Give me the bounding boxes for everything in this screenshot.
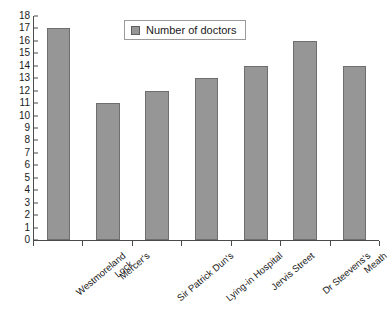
y-axis-tick-label: 6 (24, 160, 30, 170)
bar-slot (280, 16, 329, 240)
bar-slot (133, 16, 182, 240)
y-axis-tick-label: 7 (24, 148, 30, 158)
bar[interactable] (343, 66, 367, 240)
bar[interactable] (47, 28, 71, 240)
x-axis-label: Dr Steevens's (320, 250, 372, 296)
bar-slot (231, 16, 280, 240)
plot-area: 1817161514131211109876543210 (34, 16, 379, 240)
y-axis-tick-label: 14 (19, 61, 30, 71)
bar-series (34, 16, 379, 240)
bar[interactable] (145, 91, 169, 240)
y-axis-tick-label: 15 (19, 48, 30, 58)
y-axis-tick-label: 8 (24, 135, 30, 145)
y-axis-tick-label: 12 (19, 86, 30, 96)
bar[interactable] (244, 66, 268, 240)
x-axis-tick-mark (379, 241, 380, 246)
y-axis-tick-label: 18 (19, 11, 30, 21)
y-axis-tick-label: 13 (19, 73, 30, 83)
y-axis-tick-label: 9 (24, 123, 30, 133)
bar-chart: 1817161514131211109876543210 Westmorelan… (0, 0, 392, 322)
bar-slot (330, 16, 379, 240)
bar-slot (182, 16, 231, 240)
legend-label: Number of doctors (146, 24, 236, 36)
bar[interactable] (96, 103, 120, 240)
y-axis-tick-label: 2 (24, 210, 30, 220)
bar[interactable] (293, 41, 317, 240)
y-axis-tick-label: 17 (19, 23, 30, 33)
bar[interactable] (195, 78, 219, 240)
y-axis-tick-label: 0 (24, 235, 30, 245)
bar-slot (83, 16, 132, 240)
y-axis-tick-label: 3 (24, 198, 30, 208)
y-axis-tick-label: 4 (24, 185, 30, 195)
bar-slot (34, 16, 83, 240)
x-axis-labels: WestmorelandLockMercer'sSir Patrick Dun'… (33, 246, 379, 322)
legend-swatch-icon (131, 26, 140, 35)
chart-legend: Number of doctors (124, 20, 246, 40)
y-axis-tick-label: 5 (24, 173, 30, 183)
y-axis-tick-label: 1 (24, 223, 30, 233)
y-axis-tick-label: 16 (19, 36, 30, 46)
y-axis-tick-label: 11 (20, 98, 30, 108)
y-axis-tick-label: 10 (19, 111, 30, 121)
